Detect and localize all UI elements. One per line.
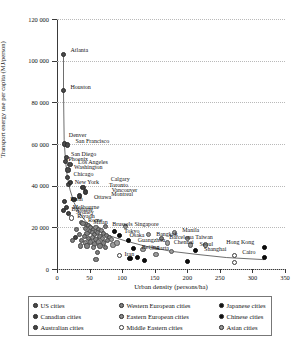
data-point	[65, 142, 70, 147]
legend-item-meast[interactable]: Middle Eastern cities	[119, 324, 219, 331]
x-tick	[252, 269, 253, 273]
data-point	[78, 243, 83, 248]
legend-label: Western European cities	[127, 302, 191, 309]
y-tick-label: 100 000	[0, 57, 49, 64]
x-tick	[187, 269, 188, 273]
point-label: Ottawa	[94, 194, 111, 200]
y-tick-label: 40 000	[0, 182, 49, 189]
legend-marker-icon	[33, 325, 38, 330]
point-label: Milan	[93, 219, 107, 225]
legend-row: US citiesWestern European citiesJapanese…	[33, 300, 267, 311]
data-point	[61, 52, 66, 57]
x-tick	[220, 269, 221, 273]
x-tick	[155, 269, 156, 273]
data-point	[97, 243, 102, 248]
legend-marker-icon	[119, 325, 124, 330]
legend-label: Australian cities	[41, 324, 84, 331]
y-tick-label: 120 000	[0, 16, 49, 23]
point-label: Manila	[182, 227, 199, 233]
x-tick	[90, 269, 91, 273]
data-layer: AtlantaHoustonDenverSan FranciscoSan Die…	[57, 19, 285, 269]
point-label: San Francisco	[75, 138, 109, 144]
gridline	[57, 269, 285, 270]
point-label: Hong Kong	[226, 239, 254, 245]
legend-marker-icon	[219, 325, 224, 330]
data-point	[84, 243, 89, 248]
data-point	[93, 257, 98, 262]
legend-marker-icon	[119, 303, 124, 308]
legend-item-chinese[interactable]: Chinese cities	[219, 313, 263, 320]
data-point	[83, 189, 88, 194]
point-label: Washington	[74, 164, 103, 170]
legend-label: Asian cities	[227, 324, 258, 331]
legend-label: Middle Eastern cities	[127, 324, 183, 331]
x-tick	[57, 269, 58, 273]
point-label: Houston	[71, 84, 91, 90]
legend-item-weu[interactable]: Western European cities	[119, 302, 219, 309]
legend-row: Australian citiesMiddle Eastern citiesAs…	[33, 322, 267, 333]
y-tick-label: 20 000	[0, 224, 49, 231]
legend-label: US cities	[41, 302, 65, 309]
data-point	[153, 252, 158, 257]
y-axis-title: Transport energy use per capita (MJ/pers…	[0, 15, 6, 185]
chart-figure: 020 00040 00060 00080 000100 000120 000 …	[0, 0, 296, 347]
legend-row: Canadian citiesEastern European citiesCh…	[33, 311, 267, 322]
y-tick-label: 60 000	[0, 141, 49, 148]
legend-marker-icon	[119, 314, 124, 319]
data-point	[262, 245, 267, 250]
data-point	[80, 221, 85, 226]
data-point	[103, 245, 108, 250]
x-tick-label: 350	[265, 274, 296, 281]
x-axis-title: Urban density (persons/ha)	[57, 283, 285, 290]
chart-legend: US citiesWestern European citiesJapanese…	[28, 296, 272, 336]
point-label: Shanghai	[204, 246, 226, 252]
legend-marker-icon	[33, 303, 38, 308]
point-label: Atlanta	[71, 47, 89, 53]
legend-item-asian[interactable]: Asian cities	[219, 324, 257, 331]
legend-marker-icon	[219, 314, 224, 319]
data-point	[95, 250, 100, 255]
data-point	[114, 240, 119, 245]
legend-item-australian[interactable]: Australian cities	[33, 324, 119, 331]
x-tick	[285, 269, 286, 273]
legend-label: Japanese cities	[227, 302, 266, 309]
legend-item-japanese[interactable]: Japanese cities	[219, 302, 266, 309]
point-label: Iran	[125, 251, 135, 257]
y-tick-label: 80 000	[0, 99, 49, 106]
legend-label: Canadian cities	[41, 313, 81, 320]
point-label: Cairo	[242, 249, 255, 255]
legend-item-canadian[interactable]: Canadian cities	[33, 313, 119, 320]
point-label: Montreal	[111, 191, 133, 197]
point-label: Taiwan	[195, 234, 213, 240]
data-point	[69, 215, 74, 220]
data-point	[91, 245, 96, 250]
point-label: New York	[75, 179, 99, 185]
data-point	[262, 255, 267, 260]
point-label: Chicago	[73, 171, 93, 177]
y-tick-label: 0	[0, 266, 49, 273]
legend-marker-icon	[33, 314, 38, 319]
point-label: Guangzhou	[138, 237, 166, 243]
x-tick	[122, 269, 123, 273]
legend-label: Chinese cities	[227, 313, 264, 320]
point-label: Chennai	[174, 239, 194, 245]
chart-plot-area: 020 00040 00060 00080 000100 000120 000 …	[0, 0, 296, 288]
legend-marker-icon	[219, 303, 224, 308]
legend-label: Eastern European cities	[127, 313, 189, 320]
point-label: Jakarta	[152, 245, 169, 251]
data-point	[65, 167, 70, 172]
data-point	[112, 229, 117, 234]
data-point	[193, 248, 198, 253]
data-point	[62, 199, 67, 204]
data-point	[232, 253, 237, 258]
legend-item-eeu[interactable]: Eastern European cities	[119, 313, 219, 320]
legend-item-us[interactable]: US cities	[33, 302, 119, 309]
point-label: Perth	[70, 196, 83, 202]
